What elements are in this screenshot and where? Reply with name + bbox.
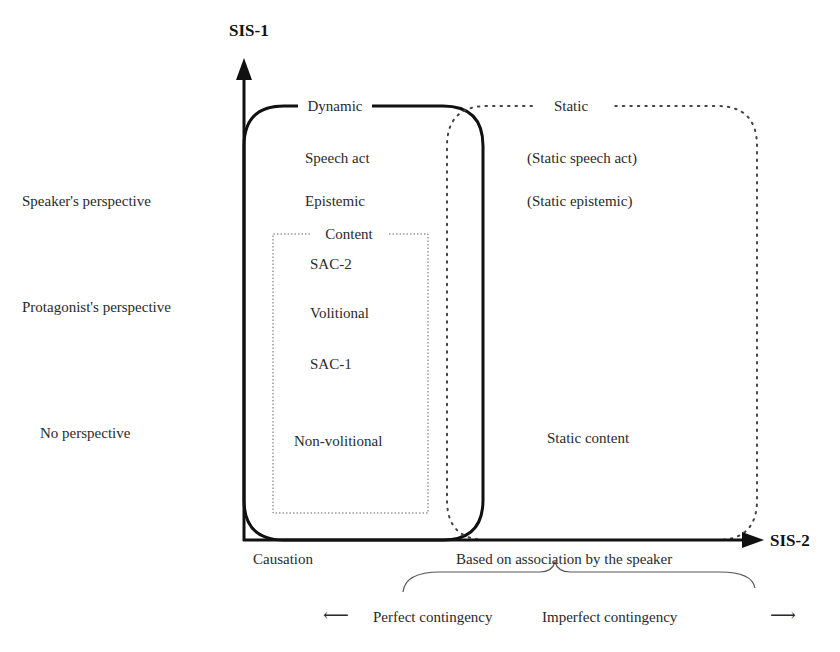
item-static-speech-act: (Static speech act) xyxy=(527,151,637,166)
y-label-none: No perspective xyxy=(40,426,130,441)
static-box-title: Static xyxy=(551,99,591,114)
perfect-contingency-label: Perfect contingency xyxy=(373,610,493,625)
diagram-canvas xyxy=(0,0,840,652)
item-volitional: Volitional xyxy=(310,306,369,321)
static-box-border xyxy=(447,106,757,540)
imperfect-contingency-label: Imperfect contingency xyxy=(542,610,677,625)
y-label-protagonist: Protagonist's perspective xyxy=(22,300,171,315)
dynamic-box-title: Dynamic xyxy=(306,99,365,114)
item-non-volitional: Non-volitional xyxy=(294,434,382,449)
content-box-border xyxy=(273,234,428,513)
item-epistemic: Epistemic xyxy=(305,194,365,209)
y-label-speaker: Speaker's perspective xyxy=(22,194,151,209)
item-static-content: Static content xyxy=(547,431,629,446)
x-label-association: Based on association by the speaker xyxy=(456,552,672,567)
x-axis-title: SIS-2 xyxy=(770,532,810,549)
item-static-epistemic: (Static epistemic) xyxy=(527,194,632,209)
x-axis-arrow-icon xyxy=(742,532,764,548)
left-arrow-icon: ⟵ xyxy=(323,606,349,624)
y-axis-arrow-icon xyxy=(236,58,252,80)
right-arrow-icon: ⟶ xyxy=(770,606,796,624)
item-sac-2: SAC-2 xyxy=(310,257,352,272)
x-label-causation: Causation xyxy=(253,552,313,567)
y-axis-title: SIS-1 xyxy=(229,22,269,39)
content-box-title: Content xyxy=(325,227,373,242)
item-speech-act: Speech act xyxy=(305,151,370,166)
item-sac-1: SAC-1 xyxy=(310,357,352,372)
